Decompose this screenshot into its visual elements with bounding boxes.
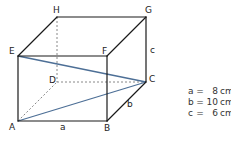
vertex-label-a: A — [9, 123, 15, 132]
edge-HE — [18, 17, 57, 56]
edge-label-b: b — [127, 100, 133, 109]
legend-value: 6 — [204, 108, 218, 119]
vertex-label-f: F — [102, 47, 107, 56]
legend-unit: cm — [218, 108, 231, 119]
legend-unit: cm — [218, 97, 231, 108]
vertex-label-e: E — [9, 47, 15, 56]
vertex-label-h: H — [53, 6, 60, 15]
legend-var: a — [188, 86, 196, 97]
legend-row-b: b = 10 cm — [188, 97, 231, 108]
legend-row-c: c = 6 cm — [188, 108, 231, 119]
legend-row-a: a = 8 cm — [188, 86, 231, 97]
edge-label-c: c — [150, 46, 155, 55]
legend-eq: = — [196, 97, 204, 108]
edge-label-a: a — [60, 123, 66, 132]
legend-value: 8 — [204, 86, 218, 97]
vertex-label-c: C — [149, 75, 155, 84]
vertex-label-b: B — [104, 124, 110, 133]
dimensions-legend: a = 8 cm b = 10 cm c = 6 cm — [188, 86, 231, 119]
segment-EC — [18, 56, 146, 82]
vertex-label-g: G — [145, 6, 152, 15]
edge-FG — [107, 17, 146, 56]
legend-var: c — [188, 108, 196, 119]
legend-eq: = — [196, 86, 204, 97]
legend-eq: = — [196, 108, 204, 119]
highlight-segments — [18, 56, 146, 121]
legend-value: 10 — [204, 97, 218, 108]
vertex-label-d: D — [49, 76, 56, 85]
cuboid-diagram — [0, 0, 231, 141]
legend-unit: cm — [218, 86, 231, 97]
legend-var: b — [188, 97, 196, 108]
